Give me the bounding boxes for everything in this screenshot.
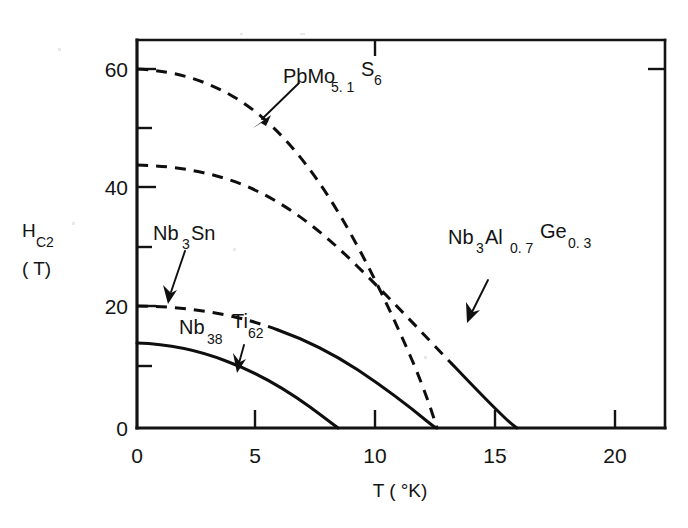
nb3sn-arrowhead <box>163 285 177 304</box>
scan-speck <box>240 33 243 35</box>
nb3alge-label-sub2: 0. 7 <box>510 240 534 256</box>
y-axis-title: H C2 ( T) <box>22 220 54 279</box>
annotation-pbmo5-1s6: PbMo 5. 1 S 6 <box>253 58 382 128</box>
pbmo-label-sub1: 5. 1 <box>331 79 355 95</box>
x-tick-label-0: 0 <box>131 444 143 467</box>
nb3alge-label-base3: Ge <box>540 220 567 242</box>
x-tick-label-10: 10 <box>363 444 386 467</box>
x-axis-title: T ( °K) <box>373 480 428 501</box>
nb3alge-label-sub1: 3 <box>476 240 484 256</box>
scan-speck <box>424 356 427 359</box>
nb3sn-label-base1: Nb <box>153 222 179 244</box>
curve-nb38ti62 <box>137 343 338 428</box>
nb3sn-label: Nb 3 Sn <box>153 222 215 252</box>
scan-speck <box>72 222 75 225</box>
nb3alge-arrowhead <box>466 302 480 323</box>
chart-canvas: 60 40 20 0 0 5 10 15 20 H C2 ( T) T ( °K… <box>0 0 688 528</box>
nb3alge-leader-line <box>472 280 488 312</box>
plot-frame <box>137 40 665 428</box>
figure-root: 60 40 20 0 0 5 10 15 20 H C2 ( T) T ( °K… <box>0 0 688 528</box>
y-tick-label-0: 0 <box>116 417 128 440</box>
y-axis-title-main: H <box>22 220 36 241</box>
annotation-nb3sn: Nb 3 Sn <box>153 222 215 304</box>
y-tick-label-60: 60 <box>105 58 128 81</box>
pbmo-leader-line <box>262 83 299 119</box>
scan-speck <box>233 248 236 251</box>
frame-inner-ticks <box>375 40 665 69</box>
nbti-leader-line <box>239 345 244 363</box>
pbmo-label-base2: S <box>361 58 374 80</box>
nb3sn-label-sub1: 3 <box>182 236 190 252</box>
nbti-label-sub1: 38 <box>207 331 223 347</box>
y-tick-label-20: 20 <box>105 295 128 318</box>
y-tick-label-40: 40 <box>105 176 128 199</box>
pbmo-label: PbMo 5. 1 S 6 <box>283 58 382 95</box>
x-tick-label-15: 15 <box>483 444 506 467</box>
pbmo-label-base1: PbMo <box>283 65 335 87</box>
y-axis-title-unit: ( T) <box>22 258 51 279</box>
scan-speck <box>58 48 61 51</box>
curve-nb3al-ge-solid <box>452 364 517 428</box>
x-tick-labels: 0 5 10 15 20 <box>131 444 627 467</box>
nbti-label-base1: Nb <box>179 316 205 338</box>
y-axis-ticks <box>137 69 156 366</box>
nb3alge-label-base2: Al <box>485 226 503 248</box>
curve-nb3sn-solid <box>278 330 437 428</box>
nb3sn-label-base2: Sn <box>191 222 215 244</box>
x-tick-label-5: 5 <box>249 444 261 467</box>
x-axis-ticks <box>255 410 615 428</box>
nb3alge-label-base1: Nb <box>448 226 474 248</box>
y-axis-title-sub: C2 <box>36 234 54 250</box>
nb3sn-leader-line <box>171 251 185 292</box>
nb3alge-label-sub3: 0. 3 <box>568 235 592 251</box>
annotation-nb3alge: Nb 3 Al 0. 7 Ge 0. 3 <box>448 220 592 323</box>
scan-speck <box>300 33 305 35</box>
nbti-label-sub2: 62 <box>248 325 264 341</box>
pbmo-label-sub2: 6 <box>374 72 382 88</box>
nb3alge-label: Nb 3 Al 0. 7 Ge 0. 3 <box>448 220 592 256</box>
annotation-nb38ti62: Nb 38 Ti 62 <box>179 310 264 373</box>
x-tick-label-20: 20 <box>603 444 626 467</box>
y-tick-labels: 60 40 20 0 <box>105 58 128 440</box>
nbti-label-base2: Ti <box>232 310 248 332</box>
